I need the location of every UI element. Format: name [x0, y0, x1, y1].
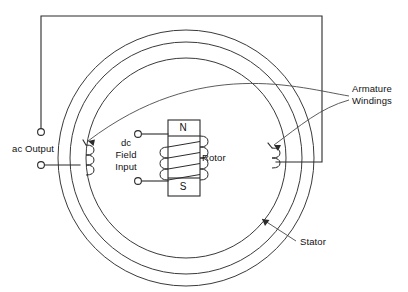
rotor-winding-strand-2: [168, 153, 200, 159]
rotor-winding-strand-4: [168, 175, 200, 181]
rotor-winding-strand-1: [168, 142, 200, 148]
armature-windings-label: Armature Windings: [352, 83, 406, 107]
rotor-winding-turn-1-left: [160, 147, 168, 158]
dc-field-input-label-line1: dc: [108, 137, 144, 149]
rotor-winding-turn-1-right: [200, 136, 208, 147]
armature-leader-to-right-coil: [274, 100, 349, 145]
rotor-field-winding: [160, 136, 208, 180]
ac-output-label: ac Output: [12, 143, 54, 155]
armature-winding-left-lead: [83, 140, 86, 145]
rotor-south-pole-label: S: [168, 181, 198, 192]
ac-output-terminal-bottom: [38, 162, 45, 169]
rotor-winding-strand-3: [168, 164, 200, 170]
stator-label: Stator: [300, 236, 326, 248]
alternator-schematic-canvas: [0, 0, 408, 292]
armature-windings-label-line2: Windings: [352, 95, 406, 107]
armature-leader-to-left-coil: [88, 83, 349, 141]
armature-winding-right-turns: [272, 148, 280, 168]
armature-winding-right-lead: [268, 143, 272, 148]
dc-field-input-label: dc Field Input: [108, 137, 144, 173]
rotor-winding-turn-4-right: [200, 169, 208, 180]
armature-winding-left: [83, 140, 94, 175]
dc-field-input-label-line3: Input: [108, 161, 144, 173]
rotor-label: Rotor: [202, 152, 226, 164]
rotor-north-pole-label: N: [168, 122, 198, 133]
stator-middle-ring: [70, 42, 302, 274]
ac-output-terminal-top: [38, 129, 45, 136]
dc-field-input-label-line2: Field: [108, 149, 144, 161]
stator-leader: [262, 219, 296, 241]
armature-windings-label-line1: Armature: [352, 83, 406, 95]
dc-field-terminal-bottom: [135, 178, 142, 185]
rotor-winding-turn-3-left: [160, 169, 168, 180]
rotor-winding-turn-2-left: [160, 158, 168, 169]
stator-leader-arrowhead: [262, 219, 270, 226]
alternator-diagram: ac Output dc Field Input Rotor Armature …: [0, 0, 408, 292]
